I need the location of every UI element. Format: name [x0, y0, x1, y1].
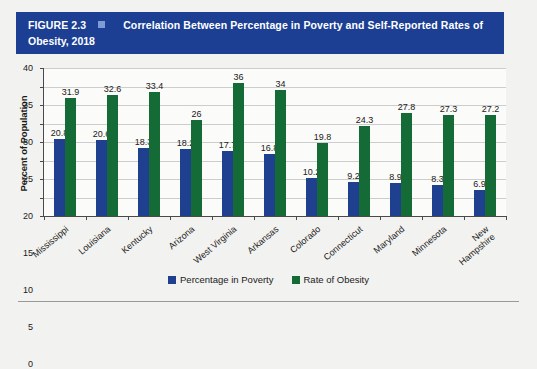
bar-poverty[interactable]: 6.9: [474, 190, 485, 216]
bar-poverty[interactable]: 20.6: [96, 140, 107, 216]
bar-group[interactable]: 8.927.8: [390, 68, 412, 216]
y-tick-label: 35: [23, 100, 33, 110]
bar-group[interactable]: 8.327.3: [432, 68, 454, 216]
bar-group[interactable]: 10.219.8: [306, 68, 328, 216]
figure-number-label: FIGURE 2.3: [28, 19, 86, 31]
bar-poverty[interactable]: 17.7: [222, 151, 233, 216]
figure-title-banner: FIGURE 2.3Correlation Between Percentage…: [16, 12, 504, 54]
bar-obesity[interactable]: 31.9: [65, 98, 76, 216]
bar-value-label: 27.3: [440, 104, 458, 114]
bar-group[interactable]: 16.834: [264, 68, 286, 216]
bar-value-label: 24.3: [356, 115, 374, 125]
bar-obesity[interactable]: 34: [275, 90, 286, 216]
bar-group[interactable]: 20.632.6: [96, 68, 118, 216]
y-tick-label: 5: [28, 322, 33, 332]
bar-group[interactable]: 18.226: [180, 68, 202, 216]
bar-obesity[interactable]: 26: [191, 120, 202, 216]
bar-poverty[interactable]: 8.3: [432, 185, 443, 216]
x-tick-mark: [506, 216, 507, 220]
legend-label: Percentage in Poverty: [180, 274, 273, 285]
banner-first-line: FIGURE 2.3Correlation Between Percentage…: [28, 17, 494, 33]
bar-value-label: 9.2: [347, 171, 360, 181]
bar-value-label: 36: [233, 72, 243, 82]
legend-swatch-obesity: [292, 276, 300, 284]
bar-value-label: 27.8: [398, 102, 416, 112]
bar-obesity[interactable]: 27.3: [443, 115, 454, 216]
bar-value-label: 26: [191, 109, 201, 119]
bar-obesity[interactable]: 32.6: [107, 95, 118, 216]
bar-value-label: 31.9: [62, 87, 80, 97]
bar-obesity[interactable]: 24.3: [359, 126, 370, 216]
bar-group[interactable]: 9.224.3: [348, 68, 370, 216]
bar-group[interactable]: 20.831.9: [54, 68, 76, 216]
y-tick-label: 20: [23, 211, 33, 221]
bar-group[interactable]: 6.927.2: [474, 68, 496, 216]
y-tick-label: 25: [23, 174, 33, 184]
bar-value-label: 8.3: [431, 174, 444, 184]
y-tick-label: 30: [23, 137, 33, 147]
bar-value-label: 19.8: [314, 132, 332, 142]
legend-item[interactable]: Rate of Obesity: [292, 274, 369, 285]
bar-poverty[interactable]: 16.8: [264, 154, 275, 216]
bar-obesity[interactable]: 27.2: [485, 115, 496, 216]
bar-poverty[interactable]: 8.9: [390, 183, 401, 216]
bar-obesity[interactable]: 19.8: [317, 143, 328, 216]
bar-poverty[interactable]: 10.2: [306, 178, 317, 216]
legend-label: Rate of Obesity: [304, 274, 369, 285]
bars-layer: 20.831.920.632.618.333.418.22617.73616.8…: [44, 68, 506, 216]
figure-title-line2: Obesity, 2018: [28, 33, 494, 49]
bar-value-label: 32.6: [104, 84, 122, 94]
bar-poverty[interactable]: 9.2: [348, 182, 359, 216]
y-tick-label: 40: [23, 63, 33, 73]
bar-value-label: 33.4: [146, 81, 164, 91]
bar-obesity[interactable]: 36: [233, 83, 244, 216]
bar-chart: Percent of Population 0510152025303540 2…: [0, 60, 537, 309]
bar-poverty[interactable]: 18.2: [180, 149, 191, 216]
figure-title-line1: Correlation Between Percentage in Povert…: [123, 19, 483, 31]
plot-area: 0510152025303540 20.831.920.632.618.333.…: [43, 68, 506, 217]
chart-legend: Percentage in PovertyRate of Obesity: [0, 274, 537, 285]
small-square-icon: [98, 21, 105, 28]
legend-swatch-poverty: [168, 276, 176, 284]
bar-value-label: 8.9: [389, 172, 402, 182]
legend-item[interactable]: Percentage in Poverty: [168, 274, 273, 285]
bar-obesity[interactable]: 27.8: [401, 113, 412, 216]
bar-value-label: 6.9: [473, 179, 486, 189]
bar-group[interactable]: 18.333.4: [138, 68, 160, 216]
bar-poverty[interactable]: 18.3: [138, 148, 149, 216]
bar-group[interactable]: 17.736: [222, 68, 244, 216]
bar-value-label: 27.2: [482, 104, 500, 114]
bottom-divider: [18, 301, 519, 302]
bar-obesity[interactable]: 33.4: [149, 92, 160, 216]
bar-value-label: 34: [275, 79, 285, 89]
bar-poverty[interactable]: 20.8: [54, 139, 65, 216]
y-tick-label: 0: [28, 359, 33, 369]
